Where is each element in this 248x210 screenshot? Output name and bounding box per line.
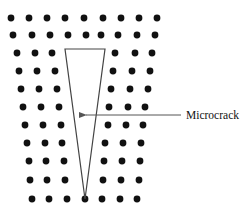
atom-dot	[43, 158, 50, 165]
atom-dot	[81, 15, 88, 22]
atom-dot	[62, 177, 69, 184]
atom-dot	[49, 50, 56, 57]
atom-dot	[127, 86, 134, 93]
atom-dot	[40, 122, 47, 129]
atom-dot	[44, 177, 51, 184]
atom-dot	[125, 104, 132, 111]
atom-dot	[83, 32, 90, 39]
atom-dot	[65, 32, 72, 39]
atom-dot	[62, 15, 69, 22]
atom-dot	[38, 104, 45, 111]
atom-dot	[26, 15, 33, 22]
atom-dot	[119, 158, 126, 165]
atom-dot	[59, 140, 66, 147]
atom-dot	[123, 122, 130, 129]
atom-dot	[105, 122, 112, 129]
atom-dot	[98, 32, 105, 39]
atom-dot	[112, 50, 119, 57]
atom-dot	[136, 15, 143, 22]
atom-dot	[99, 196, 106, 203]
atom-dot	[10, 32, 17, 39]
atom-dot	[52, 68, 59, 75]
atom-dot	[149, 50, 156, 57]
atom-dot	[101, 158, 108, 165]
atom-dot	[137, 158, 144, 165]
atom-dot	[58, 122, 65, 129]
atom-dot	[54, 86, 61, 93]
atom-dot	[44, 15, 51, 22]
atom-dot	[32, 50, 39, 57]
atom-dot	[120, 140, 127, 147]
microcrack-label: Microcrack	[186, 109, 239, 121]
atom-dot	[34, 68, 41, 75]
atom-dot	[42, 140, 49, 147]
atom-dot	[20, 104, 27, 111]
atom-dot	[145, 86, 152, 93]
atom-dot	[118, 15, 125, 22]
atom-dot	[117, 196, 124, 203]
atom-dot	[140, 122, 147, 129]
atom-dot	[138, 140, 145, 147]
atom-dot	[27, 177, 34, 184]
atom-dot	[134, 196, 141, 203]
atom-dot	[16, 68, 23, 75]
atom-dot	[132, 50, 139, 57]
atom-dot	[29, 196, 36, 203]
atom-dot	[18, 86, 25, 93]
atom-dot	[152, 32, 159, 39]
atom-dot	[147, 68, 154, 75]
atom-dot	[24, 140, 31, 147]
atom-dot	[29, 32, 36, 39]
atom-dot	[106, 104, 113, 111]
atom-dot	[108, 86, 115, 93]
atom-dot	[142, 104, 149, 111]
atom-dot	[115, 32, 122, 39]
microcrack-wedge	[65, 49, 105, 199]
atom-dot	[134, 32, 141, 39]
atom-dot	[136, 177, 143, 184]
atom-dot	[56, 104, 63, 111]
atom-dot	[129, 68, 136, 75]
atom-dot	[46, 196, 53, 203]
atom-dot	[102, 140, 109, 147]
atom-dot	[47, 32, 54, 39]
atom-dot	[154, 15, 161, 22]
atom-dot	[100, 15, 107, 22]
atom-dot	[26, 158, 33, 165]
microcrack-diagram: Microcrack	[0, 0, 248, 210]
atom-dot	[110, 68, 117, 75]
atom-dot	[8, 15, 15, 22]
atom-dot	[36, 86, 43, 93]
atom-dot	[22, 122, 29, 129]
atom-lattice	[8, 15, 161, 203]
atom-dot	[118, 177, 125, 184]
atom-dot	[64, 196, 71, 203]
atom-dot	[100, 177, 107, 184]
atom-dot	[14, 50, 21, 57]
atom-dot	[61, 158, 68, 165]
